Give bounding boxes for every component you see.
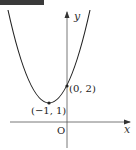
y-axis-label: y [73, 10, 81, 23]
y-axis-arrow-icon [65, 11, 70, 18]
y-intercept-label: (0, 2) [69, 83, 96, 94]
vertex-label: (−1, 1) [31, 105, 66, 116]
graph: y x O (0, 2) (−1, 1) [0, 0, 136, 150]
x-axis-label: x [124, 123, 131, 136]
origin-label: O [57, 125, 65, 136]
